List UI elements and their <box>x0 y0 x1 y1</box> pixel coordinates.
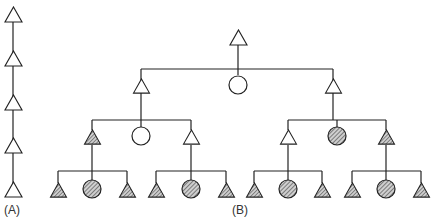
triangle-hatched-icon <box>149 183 165 197</box>
triangle-open-icon <box>184 130 200 144</box>
triangle-open-icon <box>5 138 22 153</box>
triangle-open-icon <box>134 79 150 93</box>
circle-open-icon <box>132 127 150 145</box>
triangle-hatched-icon <box>247 183 263 197</box>
triangle-open-icon <box>5 95 22 110</box>
triangle-hatched-icon <box>315 183 331 197</box>
triangle-open-icon <box>5 7 22 22</box>
circle-open-icon <box>229 76 247 94</box>
diagram-b-nodes <box>51 30 430 198</box>
root-triangle-open-icon <box>230 30 247 45</box>
triangle-hatched-icon <box>414 183 430 197</box>
pedigree-diagram <box>0 0 438 221</box>
circle-hatched-icon <box>328 127 346 145</box>
label-b: (B) <box>232 203 248 217</box>
triangle-hatched-icon <box>345 183 361 197</box>
circle-hatched-icon <box>83 180 101 198</box>
circle-hatched-icon <box>377 180 395 198</box>
triangle-hatched-icon <box>51 183 67 197</box>
label-a: (A) <box>4 203 20 217</box>
triangle-open-icon <box>281 130 297 144</box>
triangle-open-icon <box>5 182 22 197</box>
triangle-hatched-icon <box>85 130 101 144</box>
circle-hatched-icon <box>182 180 200 198</box>
triangle-open-icon <box>326 79 342 93</box>
triangle-hatched-icon <box>379 130 395 144</box>
diagram-b-lines <box>58 45 421 183</box>
triangle-hatched-icon <box>120 183 136 197</box>
circle-hatched-icon <box>279 180 297 198</box>
triangle-hatched-icon <box>219 183 235 197</box>
triangle-open-icon <box>5 51 22 66</box>
